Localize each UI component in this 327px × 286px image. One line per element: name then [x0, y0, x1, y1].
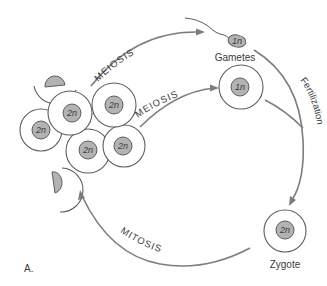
meiosis-arrow-to-egg: MEIOSIS	[133, 85, 219, 128]
meiosis-arrow-to-sperm: MEIOSIS	[91, 29, 205, 87]
diagram-svg: 2n 2n 2n 2n 2n	[0, 0, 327, 286]
arrowhead-icon	[289, 196, 296, 206]
zygote-cell: 2n	[264, 210, 306, 252]
zygote-label: Zygote	[270, 259, 301, 270]
fertilization-arrow: Fertilization	[254, 50, 326, 206]
life-cycle-diagram: 2n 2n 2n 2n 2n	[0, 0, 327, 286]
panel-label: A.	[24, 263, 33, 274]
arrowhead-icon	[196, 29, 205, 36]
diploid-cell: 2n	[48, 91, 92, 135]
diploid-cell: 2n	[92, 83, 136, 127]
ploidy-label: 2n	[108, 100, 119, 110]
ploidy-label: 2n	[117, 141, 128, 151]
sperm-gamete: 1n	[185, 18, 247, 49]
gametes-label: Gametes	[215, 52, 256, 63]
ploidy-label: 2n	[279, 225, 290, 235]
egg-gamete: 1n	[219, 65, 263, 109]
arrowhead-icon	[210, 85, 219, 92]
partial-cell-bottom	[52, 168, 83, 212]
ploidy-label: 2n	[66, 108, 77, 118]
diploid-cell-cluster: 2n 2n 2n 2n 2n	[20, 76, 145, 212]
fertilization-label: Fertilization	[298, 75, 326, 125]
meiosis-label-top: MEIOSIS	[92, 46, 136, 83]
mitosis-arrow: MITOSIS	[78, 190, 250, 266]
ploidy-label: 1n	[232, 36, 242, 46]
ploidy-label: 2n	[35, 125, 46, 135]
sperm-tail	[185, 18, 229, 39]
diploid-cell: 2n	[103, 125, 145, 167]
meiosis-label-middle: MEIOSIS	[133, 88, 180, 120]
ploidy-label: 2n	[82, 145, 93, 155]
ploidy-label: 1n	[235, 82, 245, 92]
